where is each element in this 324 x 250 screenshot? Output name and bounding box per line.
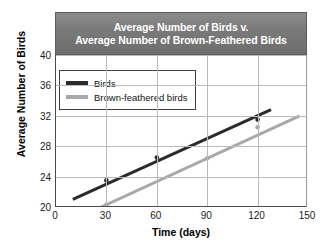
chart-title-line-2: Average Number of Brown-Feathered Birds xyxy=(75,34,287,47)
chart-legend: Birds Brown-feathered birds xyxy=(59,70,196,110)
y-axis-tick-label: 20 xyxy=(9,202,55,213)
y-axis-tick-label: 24 xyxy=(9,171,55,182)
legend-swatch-brown-feathered-birds xyxy=(66,95,88,99)
gridline-horizontal xyxy=(56,116,306,117)
plot-area: Birds Brown-feathered birds xyxy=(55,55,307,207)
gridline-horizontal xyxy=(56,85,306,86)
gridline-horizontal xyxy=(56,177,306,178)
gridline-vertical xyxy=(157,55,158,206)
gridline-horizontal xyxy=(56,55,306,56)
gridline-vertical xyxy=(258,55,259,206)
legend-label-birds: Birds xyxy=(94,78,116,89)
chart-title-banner: Average Number of Birds v. Average Numbe… xyxy=(55,12,307,55)
y-axis-tick-labels: 202428323640 xyxy=(0,0,55,250)
x-axis-tick-label: 30 xyxy=(100,210,111,221)
chart-title-line-1: Average Number of Birds v. xyxy=(114,21,249,34)
legend-label-brown-feathered-birds: Brown-feathered birds xyxy=(94,92,187,103)
y-axis-title: Average Number of Birds xyxy=(15,19,27,169)
chart-figure: Average Number of Birds v. Average Numbe… xyxy=(0,0,324,250)
legend-item-brown-feathered-birds: Brown-feathered birds xyxy=(66,90,187,104)
x-axis-tick-label: 0 xyxy=(52,210,58,221)
gridline-horizontal xyxy=(56,146,306,147)
gridline-vertical xyxy=(106,55,107,206)
series-line xyxy=(101,116,299,207)
x-axis-tick-label: 150 xyxy=(299,210,316,221)
x-axis-tick-label: 120 xyxy=(248,210,265,221)
x-axis-title: Time (days) xyxy=(55,226,307,238)
series-line xyxy=(73,110,271,200)
x-axis-tick-label: 60 xyxy=(150,210,161,221)
legend-item-birds: Birds xyxy=(66,76,187,90)
legend-swatch-birds xyxy=(66,81,88,85)
gridline-vertical xyxy=(207,55,208,206)
x-axis-tick-label: 90 xyxy=(201,210,212,221)
